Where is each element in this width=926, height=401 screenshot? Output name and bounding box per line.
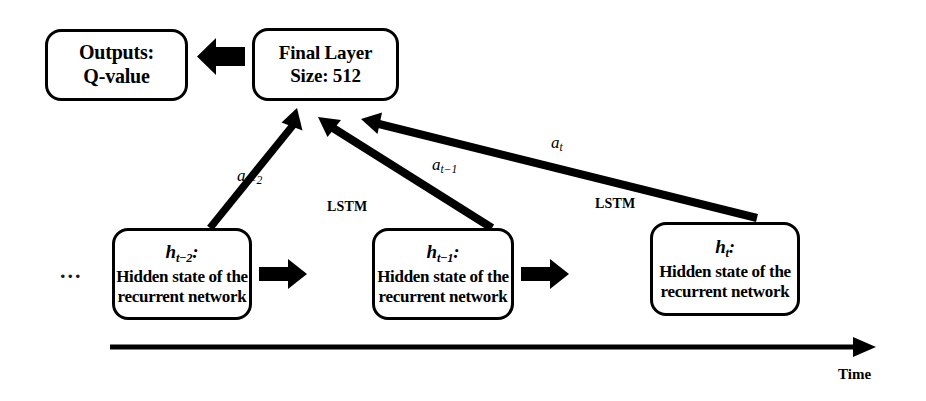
diagram-canvas: Outputs: Q-value Final Layer Size: 512 h…	[0, 0, 926, 401]
hidden-state-symbol-t: ht:	[715, 236, 735, 260]
h-colon: :	[453, 241, 459, 262]
action-label-t-minus-2: at−2	[237, 166, 262, 187]
a-symbol: a	[551, 133, 560, 152]
a-symbol: a	[432, 155, 441, 174]
hidden-state-line-2: recurrent network	[661, 282, 790, 302]
hidden-state-box-t: ht: Hidden state of the recurrent networ…	[650, 222, 800, 316]
h-colon: :	[729, 236, 735, 257]
hidden-state-line-2: recurrent network	[118, 287, 247, 307]
final-layer-box: Final Layer Size: 512	[252, 28, 399, 101]
hidden-state-line-2: recurrent network	[379, 287, 508, 307]
h-subscript: t−2	[176, 251, 192, 265]
arrow-lstm-2	[521, 259, 569, 289]
h-symbol: h	[427, 241, 437, 262]
outputs-line-1: Outputs:	[79, 41, 154, 65]
a-symbol: a	[237, 166, 246, 185]
arrow-lstm-1	[259, 259, 307, 289]
final-layer-line-2: Size: 512	[290, 65, 361, 87]
h-colon: :	[192, 241, 198, 262]
arrow-action-t	[361, 113, 757, 219]
h-subscript: t−1	[437, 251, 453, 265]
outputs-line-2: Q-value	[83, 65, 149, 89]
a-subscript: t−2	[246, 174, 263, 187]
action-label-t: at	[551, 133, 563, 154]
action-label-t-minus-1: at−1	[432, 155, 457, 176]
arrow-final-layer-to-outputs	[197, 38, 245, 75]
outputs-box: Outputs: Q-value	[45, 29, 188, 101]
time-axis-label: Time	[838, 366, 871, 383]
hidden-state-box-t-minus-2: ht−2: Hidden state of the recurrent netw…	[112, 228, 252, 320]
lstm-label-2: LSTM	[595, 196, 635, 212]
hidden-state-line-1: Hidden state of the	[377, 267, 509, 287]
h-symbol: h	[166, 241, 176, 262]
h-symbol: h	[715, 236, 725, 257]
final-layer-line-1: Final Layer	[279, 42, 372, 64]
a-subscript: t−1	[441, 163, 458, 176]
hidden-state-box-t-minus-1: ht−1: Hidden state of the recurrent netw…	[372, 228, 514, 320]
hidden-state-symbol-t-minus-1: ht−1:	[427, 241, 460, 265]
a-subscript: t	[560, 141, 563, 154]
time-axis-arrow	[110, 337, 876, 357]
continuation-ellipsis: ...	[60, 258, 83, 284]
hidden-state-line-1: Hidden state of the	[659, 262, 791, 282]
hidden-state-symbol-t-minus-2: ht−2:	[166, 241, 199, 265]
lstm-label-1: LSTM	[327, 199, 367, 215]
hidden-state-line-1: Hidden state of the	[116, 267, 248, 287]
